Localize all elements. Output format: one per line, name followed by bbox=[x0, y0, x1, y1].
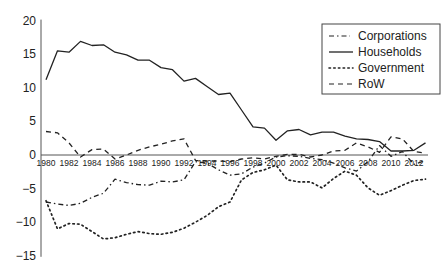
y-tick-label: −15 bbox=[16, 249, 37, 263]
legend-label: Households bbox=[358, 45, 421, 59]
x-tick-label: 2012 bbox=[405, 158, 424, 168]
legend: Corporations Households Government RoW bbox=[322, 24, 440, 94]
x-tick-label: 2010 bbox=[382, 158, 401, 168]
sectoral-balances-chart: 20151050−5−10−15 19801982198419861988199… bbox=[0, 0, 443, 270]
y-tick-label: 5 bbox=[29, 114, 36, 128]
legend-label: RoW bbox=[358, 77, 385, 91]
y-axis-ticks: 20151050−5−10−15 bbox=[16, 14, 37, 263]
y-tick-label: 10 bbox=[23, 81, 37, 95]
y-tick-label: 20 bbox=[23, 14, 37, 28]
x-tick-label: 1988 bbox=[129, 158, 148, 168]
y-tick-label: −10 bbox=[16, 215, 37, 229]
x-tick-label: 1996 bbox=[221, 158, 240, 168]
x-tick-label: 1990 bbox=[152, 158, 171, 168]
x-tick-label: 2002 bbox=[290, 158, 309, 168]
y-tick-label: −5 bbox=[22, 182, 36, 196]
x-tick-label: 1980 bbox=[37, 158, 56, 168]
x-tick-label: 1984 bbox=[83, 158, 102, 168]
x-tick-label: 2006 bbox=[336, 158, 355, 168]
series-government-line bbox=[46, 165, 426, 239]
y-tick-label: 0 bbox=[29, 148, 36, 162]
y-tick-label: 15 bbox=[23, 47, 37, 61]
legend-label: Government bbox=[358, 61, 425, 75]
x-tick-label: 1992 bbox=[175, 158, 194, 168]
legend-label: Corporations bbox=[358, 29, 427, 43]
x-tick-label: 2008 bbox=[359, 158, 378, 168]
x-tick-label: 1982 bbox=[60, 158, 79, 168]
